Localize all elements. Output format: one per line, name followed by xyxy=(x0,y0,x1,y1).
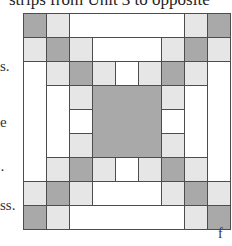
quilt-piece-white xyxy=(184,85,208,158)
quilt-piece-dark xyxy=(23,205,47,230)
quilt-piece-light xyxy=(184,61,208,86)
quilt-piece-white xyxy=(92,181,162,206)
quilt-piece-light xyxy=(69,181,93,206)
quilt-piece-light xyxy=(184,13,208,38)
quilt-piece-dark xyxy=(184,181,208,206)
quilt-piece-light xyxy=(161,37,185,62)
quilt-piece-light xyxy=(138,157,162,182)
quilt-piece-white xyxy=(161,109,185,134)
quilt-piece-light xyxy=(69,85,93,110)
quilt-piece-dark xyxy=(184,37,208,62)
quilt-piece-white xyxy=(115,157,139,182)
quilt-piece-dark xyxy=(69,157,93,182)
margin-text-fragment: ss. xyxy=(0,197,15,213)
quilt-piece-light xyxy=(23,181,47,206)
quilt-piece-dark xyxy=(46,37,70,62)
quilt-piece-light xyxy=(138,61,162,86)
quilt-piece-white xyxy=(46,85,70,158)
figure-label: f xyxy=(218,226,223,242)
quilt-piece-light xyxy=(69,37,93,62)
quilt-piece-light xyxy=(92,157,116,182)
margin-text-fragment: e xyxy=(0,114,7,130)
quilt-piece-dark xyxy=(161,61,185,86)
quilt-piece-light xyxy=(46,13,70,38)
quilt-piece-dark xyxy=(46,181,70,206)
quilt-piece-light xyxy=(69,133,93,158)
quilt-piece-white xyxy=(69,13,185,38)
quilt-piece-dark xyxy=(69,61,93,86)
quilt-piece-dark xyxy=(161,157,185,182)
quilt-piece-light xyxy=(184,205,208,230)
quilt-piece-light xyxy=(207,37,231,62)
quilt-piece-light xyxy=(207,181,231,206)
quilt-piece-light xyxy=(161,85,185,110)
quilt-piece-white xyxy=(92,37,162,62)
quilt-piece-white xyxy=(23,61,47,182)
quilt-piece-dark xyxy=(92,85,162,158)
quilt-piece-dark xyxy=(207,13,231,38)
quilt-piece-dark xyxy=(23,13,47,38)
quilt-piece-light xyxy=(92,61,116,86)
quilt-piece-light xyxy=(161,133,185,158)
quilt-piece-light xyxy=(23,37,47,62)
quilt-piece-white xyxy=(207,61,231,182)
margin-text-fragment: s. xyxy=(0,58,10,74)
quilt-piece-light xyxy=(46,205,70,230)
quilt-piece-white xyxy=(69,205,185,230)
quilt-piece-light xyxy=(46,157,70,182)
quilt-piece-white xyxy=(115,61,139,86)
quilt-piece-white xyxy=(69,109,93,134)
margin-text-fragment: · xyxy=(0,162,5,178)
quilt-piece-light xyxy=(184,157,208,182)
quilt-piece-light xyxy=(46,61,70,86)
page-header-text: strips from Unit 3 to opposite xyxy=(0,0,232,9)
quilt-piece-light xyxy=(161,181,185,206)
